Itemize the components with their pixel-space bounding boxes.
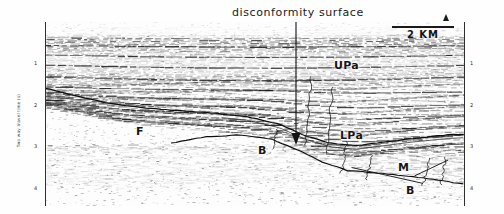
label-miocene: M [398,161,409,174]
scale-bar-label: 2 KM [392,29,454,40]
label-upper-pannonian: UPa [334,59,359,72]
y-tick-left-4: 4 [34,186,37,191]
y-tick-left-1: 1 [34,61,37,66]
figure-caption: disconformity surface [232,6,364,19]
label-fault: F [136,125,144,138]
label-basement-right: B [406,184,415,197]
y-tick-left-3: 3 [34,144,37,149]
y-axis-title: Two way travel time (s) [16,79,21,163]
top-index-marker [443,14,449,21]
y-tick-left-2: 2 [34,103,37,108]
label-lower-pannonian: LPa [340,129,363,142]
y-tick-right-2: 2 [470,103,473,108]
seismic-section-figure: disconformity surface 2 KM UPa LPa M B B… [0,0,504,214]
y-tick-right-4: 4 [470,186,473,191]
y-tick-right-3: 3 [470,144,473,149]
scale-bar: 2 KM [392,26,454,40]
label-basement-center: B [258,144,267,157]
scale-bar-line [392,26,454,28]
y-tick-right-1: 1 [470,61,473,66]
